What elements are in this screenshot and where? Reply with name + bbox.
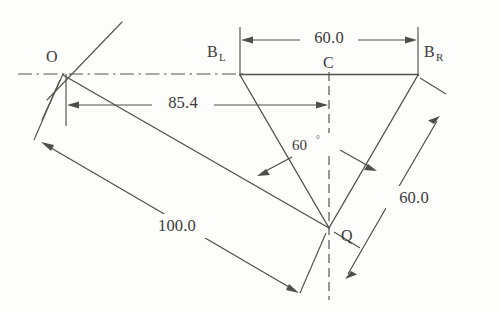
dimension-right-60: 60.0: [334, 78, 446, 279]
arrow-head-right-85-4: [316, 101, 328, 108]
point-label-BR-subscript: R: [436, 51, 444, 63]
point-label-BR: B: [424, 43, 435, 60]
point-label-BL-subscript: L: [219, 51, 226, 63]
technical-drawing-canvas: 60.0 85.4 60.0: [0, 0, 499, 312]
point-label-Q: Q: [341, 227, 353, 244]
arrow-head-down-right-100: [286, 284, 299, 293]
point-label-O: O: [46, 48, 58, 65]
point-label-C: C: [323, 54, 334, 71]
witness-line-Q-lower: [300, 233, 326, 293]
angle-degree-symbol: °: [316, 135, 320, 145]
dimension-line-right-lower: [348, 208, 386, 274]
engineering-diagram: 60.0 85.4 60.0: [0, 0, 499, 312]
dimension-value-top-60: 60.0: [314, 28, 344, 47]
point-labels-group: O B L C B R Q: [46, 43, 444, 244]
angle-value-60: 60: [292, 137, 307, 153]
arrow-head-left-top: [241, 36, 253, 43]
dimension-line-100-left: [46, 145, 178, 222]
arrow-head-up-left-100: [41, 142, 54, 151]
arrow-head-left-85-4: [67, 101, 79, 108]
dimension-value-100: 100.0: [158, 216, 196, 235]
arrow-head-upper-right-60: [428, 116, 440, 124]
dimension-line-right-upper: [398, 121, 437, 188]
witness-line-BR-offset: [420, 78, 446, 94]
dimension-value-85-4: 85.4: [168, 93, 198, 112]
witness-line-O-lower: [34, 80, 60, 140]
point-label-BL: B: [207, 43, 218, 60]
arrow-head-right-top: [405, 36, 417, 43]
construction-line-through-O: [47, 22, 122, 100]
arrow-head-lower-left-60: [345, 271, 357, 279]
dimension-value-right-60: 60.0: [399, 188, 429, 207]
dimension-line-100-right: [200, 235, 294, 290]
angle-annotation-60: 60 °: [257, 133, 377, 176]
